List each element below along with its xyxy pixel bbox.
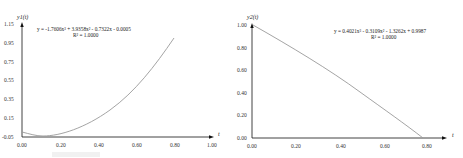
y-tick: 0.55 — [4, 77, 14, 83]
y-tick: -0.05 — [2, 134, 14, 140]
x-axis-arrow-icon — [442, 136, 447, 139]
cropped-caption — [52, 152, 100, 157]
y-axis-label: y1(t) — [16, 14, 28, 21]
r-squared: R² = 1.0000 — [73, 32, 99, 38]
y-tick: 0.60 — [237, 67, 247, 73]
x-tick: 0.60 — [380, 143, 390, 149]
y2-curve — [253, 25, 423, 138]
x-axis-label: t — [218, 131, 220, 137]
y-tick: 1.00 — [237, 22, 247, 28]
charts-canvas: y1(t) t 1.15 0.95 0.75 0.55 0.35 0.15 -0… — [0, 0, 463, 158]
x-tick: 0.20 — [291, 143, 301, 149]
y-tick: 0.35 — [4, 96, 14, 102]
x-tick: 0.40 — [94, 142, 104, 148]
y-axis-arrow-icon — [20, 22, 23, 27]
chart-y1: y1(t) t 1.15 0.95 0.75 0.55 0.35 0.15 -0… — [2, 14, 220, 157]
y-tick: 1.15 — [4, 21, 14, 27]
chart-y2: y2(t) t 1.00 0.80 0.60 0.40 0.20 0.00 0.… — [237, 14, 454, 149]
r-squared: R² = 1.0000 — [371, 34, 397, 40]
y-tick: 0.20 — [237, 112, 247, 118]
x-tick: 0.80 — [170, 142, 180, 148]
y-tick: 0.00 — [237, 135, 247, 141]
y1-curve — [22, 38, 174, 136]
x-tick: 1.00 — [207, 142, 217, 148]
x-tick: 0.00 — [17, 142, 27, 148]
x-tick: 0.40 — [336, 143, 346, 149]
x-tick: 0.60 — [132, 142, 142, 148]
x-axis-arrow-icon — [209, 135, 214, 138]
y-tick: 0.75 — [4, 59, 14, 65]
y-tick: 0.40 — [237, 90, 247, 96]
x-axis-label: t — [452, 132, 454, 138]
y-tick: 0.95 — [4, 40, 14, 46]
y-tick: 0.15 — [4, 115, 14, 121]
x-tick: 0.00 — [247, 143, 257, 149]
x-tick: 0.80 — [422, 143, 432, 149]
x-tick: 0.20 — [56, 142, 66, 148]
y-axis-label: y2(t) — [246, 14, 258, 21]
y-tick: 0.80 — [237, 45, 247, 51]
